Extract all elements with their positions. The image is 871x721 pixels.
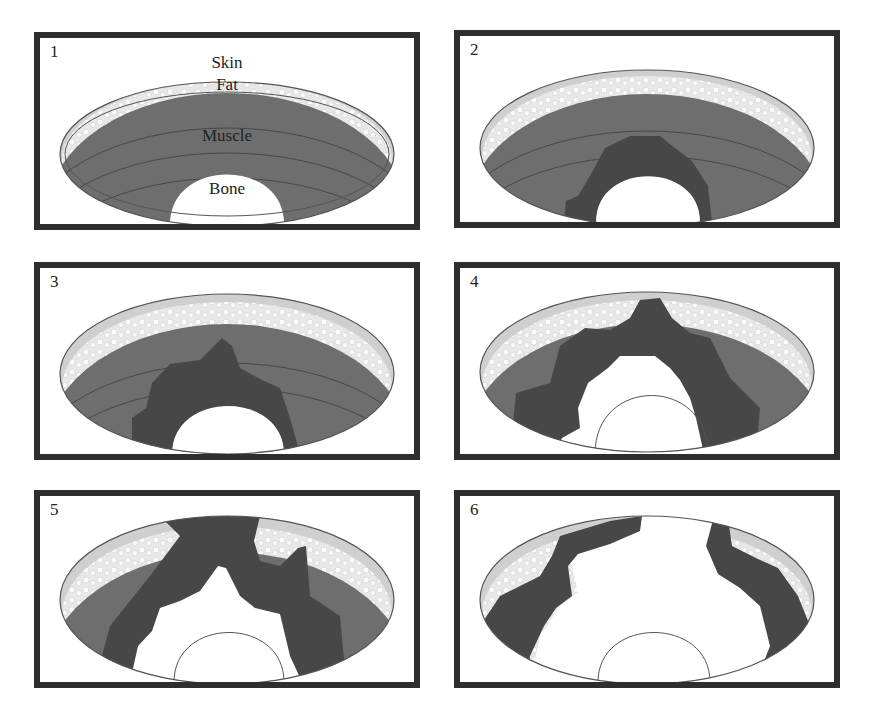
- panel-5: 5: [34, 490, 420, 688]
- label-bone: Bone: [209, 179, 245, 198]
- label-muscle: Muscle: [202, 126, 252, 145]
- panel-6: 6: [454, 490, 840, 688]
- panel-1: 1 Skin Fat Muscle Bone: [34, 32, 420, 230]
- limb-cross-section: [460, 268, 834, 454]
- limb-cross-section: [460, 496, 834, 682]
- panel-3: 3: [34, 262, 420, 460]
- label-fat: Fat: [216, 75, 238, 94]
- limb-cross-section: Skin Fat Muscle Bone: [40, 38, 414, 224]
- limb-cross-section: [460, 36, 834, 222]
- label-skin: Skin: [211, 53, 243, 72]
- limb-cross-section: [40, 268, 414, 454]
- panel-4: 4: [454, 262, 840, 460]
- panel-2: 2: [454, 30, 840, 228]
- limb-cross-section: [40, 496, 414, 682]
